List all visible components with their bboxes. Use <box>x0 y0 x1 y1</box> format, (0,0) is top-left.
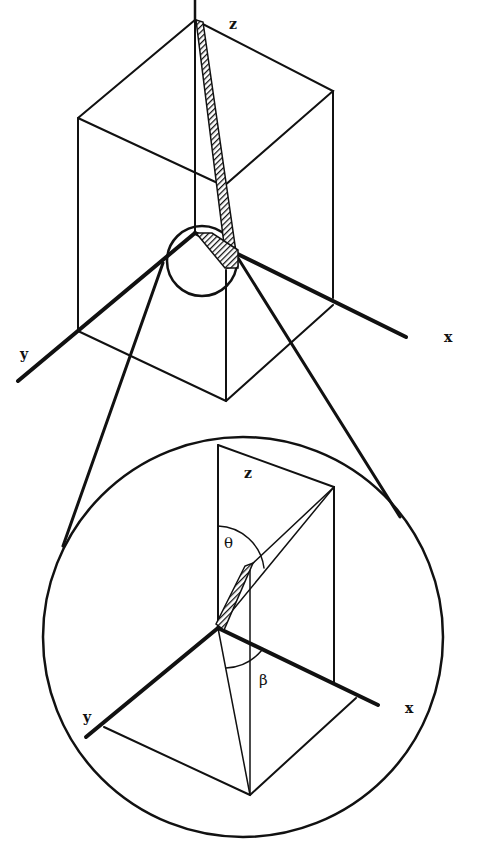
x-axis-label-inset: x <box>405 700 414 716</box>
z-axis-label-top: z <box>229 16 237 32</box>
x-axis-label-top: x <box>444 329 453 345</box>
rod-top <box>196 20 238 268</box>
y-axis-label-top: y <box>19 346 29 362</box>
rod-inset <box>216 563 253 630</box>
theta-angle-label: θ <box>224 534 233 552</box>
inset-view <box>43 437 443 837</box>
z-axis-label-inset: z <box>244 465 252 481</box>
beta-angle-label: β <box>259 671 268 689</box>
y-axis-label-inset: y <box>82 709 92 725</box>
orientation-diagram: z x y z x y θ β <box>0 0 481 866</box>
